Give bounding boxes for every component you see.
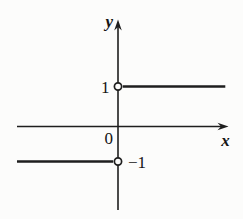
x-axis-label: x — [220, 131, 230, 150]
open-point-0-neg1 — [114, 158, 121, 165]
origin-label: 0 — [105, 129, 114, 148]
y-tick-label-1: 1 — [101, 78, 110, 97]
y-axis-label: y — [103, 12, 113, 31]
function-plot — [17, 83, 225, 165]
step-function-chart: y x 0 1 −1 — [0, 0, 243, 219]
open-point-0-1 — [114, 83, 121, 90]
step-function-figure: y x 0 1 −1 — [0, 0, 243, 219]
axes — [17, 20, 229, 211]
y-tick-label-neg1: −1 — [128, 153, 146, 172]
